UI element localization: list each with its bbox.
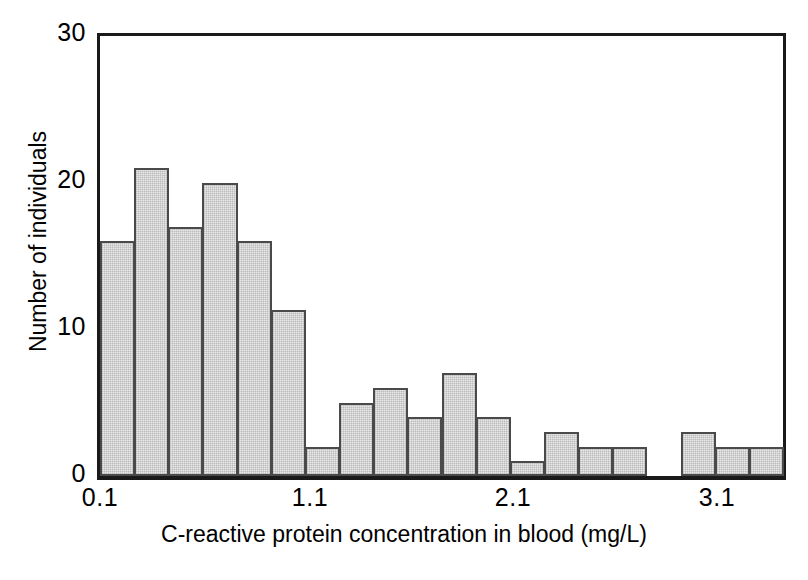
bar-series [100, 36, 783, 476]
histogram-bar [715, 447, 750, 476]
histogram-bar [442, 373, 477, 476]
y-tick-label-30: 30 [57, 20, 86, 45]
x-tick-label-3-1: 3.1 [699, 483, 735, 511]
histogram-bar [305, 447, 340, 476]
histogram-bar [749, 447, 784, 476]
histogram-bar [612, 447, 647, 476]
plot-area [97, 33, 786, 480]
y-tick-label-10: 10 [57, 314, 86, 339]
histogram-bar [100, 241, 135, 476]
x-tick-label-1-1: 1.1 [292, 483, 328, 511]
x-tick-label-2-1: 2.1 [495, 483, 531, 511]
x-tick-label-0-1: 0.1 [82, 483, 118, 511]
histogram-bar [373, 388, 408, 476]
x-axis-title: C-reactive protein concentration in bloo… [0, 521, 808, 547]
histogram-bar [237, 241, 272, 476]
y-axis-title: Number of individuals [27, 22, 50, 462]
histogram-bar [476, 417, 511, 476]
histogram-bar [202, 183, 237, 476]
histogram-bar [168, 227, 203, 476]
y-tick-label-20: 20 [57, 167, 86, 192]
histogram-bar [510, 461, 545, 476]
histogram-bar [339, 403, 374, 476]
histogram-figure: 30 20 10 0 Number of individuals 0.1 1.1… [0, 0, 808, 580]
histogram-bar [578, 447, 613, 476]
histogram-bar [544, 432, 579, 476]
histogram-bar [271, 310, 306, 476]
histogram-bar [407, 417, 442, 476]
histogram-bar [681, 432, 716, 476]
x-axis-tick-labels: 0.1 1.1 2.1 3.1 [0, 483, 808, 517]
histogram-bar [134, 168, 169, 476]
